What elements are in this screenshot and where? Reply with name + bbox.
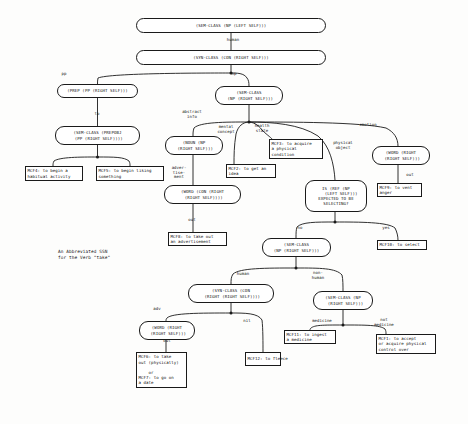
- node-text: (SYN-CLASS (CON (RIGHT (RIGHT SELF)))): [202, 288, 260, 298]
- node-text: MCF10: to select: [380, 242, 420, 247]
- leaf-node-l_mcf8: MCF8: to take out an advertisement: [168, 232, 227, 246]
- junction-dot-d_sem3: [342, 324, 345, 327]
- edge-label-e_out_1: out: [185, 218, 199, 223]
- edge-label-e_pp: pp: [57, 72, 71, 77]
- decision-node-n_syn_con: (SYN-CLASS (CON (RIGHT SELF))): [136, 50, 326, 65]
- leaf-node-l_mcf3: MCF3: to acquire a physical condition: [269, 139, 323, 159]
- edge-label-e_emotion: emotion: [352, 123, 384, 128]
- connector-c_prepobj_mcf4: [53, 157, 98, 166]
- node-text: (SEM-CLASS (NP (RIGHT SELF))): [274, 242, 319, 252]
- decision-node-n_sem_np_2: (SEM-CLASS (NP (RIGHT SELF))): [262, 238, 331, 257]
- junction-dot-d_prep: [96, 156, 99, 159]
- node-text: (WORD (CON (RIGHT (RIGHT SELF)))): [181, 189, 224, 199]
- edge-label-e_mental: mental concept: [211, 125, 241, 134]
- node-text: MCF1: to accept or acquire physical cont…: [379, 336, 427, 352]
- leaf-node-l_mcf1: MCF1: to accept or acquire physical cont…: [376, 334, 436, 354]
- decision-node-n_word_con: (WORD (CON (RIGHT (RIGHT SELF)))): [164, 185, 241, 204]
- node-text: MCF5: to begin liking something: [99, 168, 152, 178]
- edge-label-e_abstract: abstract info: [176, 110, 208, 119]
- edge-label-e_medicine: medicine: [306, 319, 338, 324]
- edge-label-e_yes: yes: [379, 226, 393, 231]
- node-text: MCF9: to vent anger: [380, 185, 413, 195]
- node-text: (SEM-CLASS (NP (RIGHT SELF))): [225, 90, 273, 100]
- decision-node-n_prepobj: (SEM-CLASS (PREPOBJ (PP (RIGHT SELF)))): [55, 126, 140, 145]
- node-text: (NOUN (NP (RIGHT SELF))): [175, 140, 213, 150]
- leaf-node-l_mcf6: MCF6: to take out (physically) or MCF7: …: [136, 352, 187, 388]
- leaf-node-l_mcf4: MCF4: to begin a habitual activity: [25, 166, 83, 181]
- junction-dot-d_syn2: [230, 312, 233, 315]
- node-text: (WORD (RIGHT (RIGHT SELF))): [382, 150, 420, 160]
- node-text: MCF2: to get an idea: [229, 166, 267, 176]
- edge-label-e_nonhuman: non- human: [307, 271, 329, 280]
- node-text: (SYN-CLASS (CON (RIGHT SELF))): [193, 55, 269, 60]
- decision-node-n_sem_np_3: (SEM-CLASS (NP (RIGHT SELF))): [313, 291, 373, 310]
- decision-node-n_prep: (PREP (PP (RIGHT SELF))): [57, 84, 138, 98]
- junction-dot-d_sem2: [295, 267, 298, 270]
- leaf-node-l_mcf5: MCF5: to begin liking something: [96, 166, 164, 181]
- leaf-node-l_mcf12: MCF12: to fleece: [245, 352, 281, 366]
- junction-dot-d_isref: [334, 221, 337, 224]
- edge-label-e_adv: adv: [150, 307, 164, 312]
- edge-label-e_nil: nil: [240, 319, 254, 324]
- node-text: MCF3: to acquire a physical condition: [272, 141, 312, 157]
- node-text: MCF12: to fleece: [248, 356, 288, 361]
- decision-node-n_syn_con_2: (SYN-CLASS (CON (RIGHT (RIGHT SELF)))): [188, 284, 274, 303]
- edge-label-e_out_3: out: [160, 339, 174, 344]
- edge-label-e_human_top: human: [218, 38, 248, 43]
- edge-label-e_physical: physical object: [327, 141, 359, 150]
- leaf-node-l_mcf11: MCF11: to ingest a medicine: [284, 330, 336, 344]
- node-text: (SEM-CLASS (PREPOBJ (PP (RIGHT SELF)))): [72, 130, 123, 140]
- edge-label-e_notmed: not medicine: [370, 318, 398, 327]
- decision-node-n_is_ref: IS (REF (NP (LEFT SELF))) EXPECTED TO BE…: [305, 180, 367, 212]
- decision-node-n_sem_np_1: (SEM-CLASS (NP (RIGHT SELF))): [215, 86, 283, 105]
- edge-label-e_health: health state: [248, 124, 276, 133]
- edge-label-e_to: to: [90, 112, 104, 117]
- decision-node-n_root: (SEM-CLASS (NP (LEFT SELF))): [136, 18, 326, 33]
- node-text: IS (REF (NP (LEFT SELF))) EXPECTED TO BE…: [315, 186, 358, 207]
- connector-c_prepobj_mcf5: [98, 157, 131, 166]
- leaf-node-l_mcf9: MCF9: to vent anger: [377, 183, 422, 197]
- leaf-node-l_mcf2: MCF2: to get an idea: [226, 164, 276, 178]
- decision-node-n_word_right: (WORD (RIGHT (RIGHT SELF))): [372, 146, 430, 165]
- node-text: (PREP (PP (RIGHT SELF))): [67, 88, 128, 93]
- node-text: MCF11: to ingest a medicine: [287, 332, 327, 342]
- edge-label-e_no_1: no: [293, 226, 307, 231]
- node-text: MCF4: to begin a habitual activity: [28, 168, 71, 178]
- decision-node-n_noun_np: (NOUN (NP (RIGHT SELF))): [165, 136, 223, 155]
- node-text: MCF8: to take out an advertisement: [171, 234, 214, 244]
- node-text: (WORD (RIGHT (RIGHT SELF))): [148, 325, 186, 335]
- figure-caption: An Abbreviated SSN for the Verb "take": [58, 249, 110, 262]
- node-text: MCF6: to take out (physically) or MCF7: …: [139, 354, 179, 385]
- edge-label-e_out_2: out: [403, 173, 417, 178]
- edge-label-e_human_low: human: [229, 272, 257, 277]
- connector-c_syn2_adv: [166, 313, 231, 321]
- edge-label-e_advert: adver- tise- ment: [167, 166, 191, 180]
- node-text: (SEM-CLASS (NP (RIGHT SELF))): [323, 295, 363, 305]
- connector-c_syn_pp: [98, 73, 232, 84]
- node-text: (SEM-CLASS (NP (LEFT SELF))): [196, 23, 267, 28]
- edge-label-e_np: np: [227, 72, 241, 77]
- ssn-diagram-figure: (SEM-CLASS (NP (LEFT SELF)))(SYN-CLASS (…: [0, 0, 468, 424]
- leaf-node-l_mcf10: MCF10: to select: [377, 240, 427, 250]
